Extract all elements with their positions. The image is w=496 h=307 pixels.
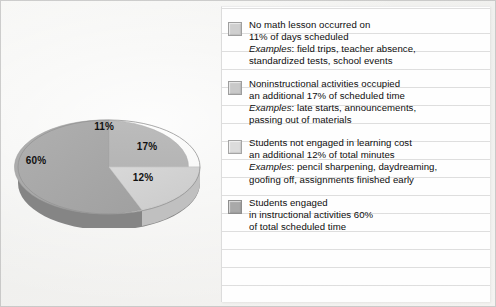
legend-examples-line: Examples: field trips, teacher absence, <box>249 43 416 55</box>
legend-entry-text: Students engaged in instructional activi… <box>249 197 373 233</box>
legend-swatch-icon <box>228 140 242 154</box>
figure-page: 11% 17% 12% 60% No math lesson occurred … <box>0 0 496 307</box>
legend-entry: No math lesson occurred on 11% of days s… <box>228 19 482 67</box>
legend-entry-text: No math lesson occurred on 11% of days s… <box>249 19 416 67</box>
legend-line: an additional 17% of scheduled time <box>249 90 416 102</box>
examples-text: : field trips, teacher absence, <box>292 43 416 54</box>
legend-line: of total scheduled time <box>249 221 373 233</box>
legend-line: Students engaged <box>249 197 373 209</box>
examples-text: : pencil sharpening, daydreaming, <box>292 161 438 172</box>
legend-entry: Students engaged in instructional activi… <box>228 197 482 233</box>
legend-line: passing out of materials <box>249 114 416 126</box>
legend-entry-text: Students not engaged in learning cost an… <box>249 137 437 185</box>
examples-label: Examples <box>249 43 292 54</box>
legend-line: goofing off, assignments finished early <box>249 174 437 186</box>
pie-slices <box>14 120 200 214</box>
legend-line: Students not engaged in learning cost <box>249 137 437 149</box>
legend-swatch-icon <box>228 200 242 214</box>
pie-value-label-11: 11% <box>94 121 114 132</box>
legend-swatch-icon <box>228 22 242 36</box>
legend-line: an additional 12% of total minutes <box>249 149 437 161</box>
examples-label: Examples <box>249 161 292 172</box>
legend-entry-text: Noninstructional activities occupied an … <box>249 78 416 126</box>
legend-entry: Students not engaged in learning cost an… <box>228 137 482 185</box>
legend-line: Noninstructional activities occupied <box>249 78 416 90</box>
legend-line: in instructional activities 60% <box>249 209 373 221</box>
legend-list: No math lesson occurred on 11% of days s… <box>222 7 490 233</box>
pie-chart: 11% 17% 12% 60% <box>10 106 208 228</box>
legend-examples-line: Examples: late starts, announcements, <box>249 102 416 114</box>
legend-line: standardized tests, school events <box>249 55 416 67</box>
legend-swatch-icon <box>228 81 242 95</box>
pie-value-label-17: 17% <box>137 141 158 152</box>
pie-value-label-60: 60% <box>26 155 47 166</box>
examples-text: : late starts, announcements, <box>292 102 417 113</box>
legend-line: No math lesson occurred on <box>249 19 416 31</box>
legend-examples-line: Examples: pencil sharpening, daydreaming… <box>249 161 437 173</box>
pie-chart-area: 11% 17% 12% 60% <box>8 8 213 299</box>
legend-line: 11% of days scheduled <box>249 31 416 43</box>
pie-value-label-12: 12% <box>133 172 154 183</box>
legend-panel: No math lesson occurred on 11% of days s… <box>221 6 490 302</box>
legend-entry: Noninstructional activities occupied an … <box>228 78 482 126</box>
examples-label: Examples <box>249 102 292 113</box>
